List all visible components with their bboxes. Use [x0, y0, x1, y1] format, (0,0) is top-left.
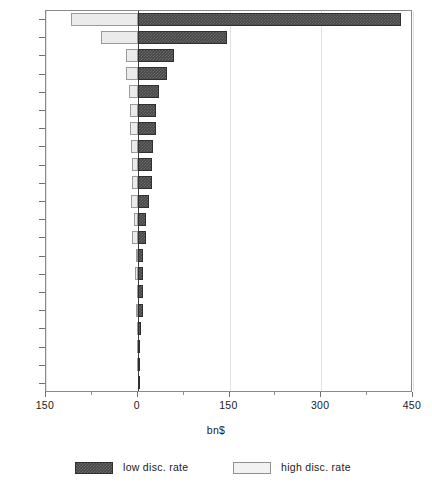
bar-low-disc-rate	[138, 49, 174, 62]
legend-label-high: high disc. rate	[281, 461, 351, 473]
bar-row	[46, 139, 411, 156]
bar-row	[46, 66, 411, 83]
bar-row	[46, 339, 411, 356]
bar-row	[46, 12, 411, 29]
x-tick-label: 300	[290, 399, 350, 411]
y-tick-mark	[39, 274, 45, 275]
y-tick-mark	[39, 165, 45, 166]
x-tick-label: 450	[382, 399, 432, 411]
x-tick-mark	[45, 392, 46, 397]
x-tick-label: 0	[107, 399, 167, 411]
y-tick-mark	[39, 219, 45, 220]
y-tick-mark	[39, 92, 45, 93]
bar-low-disc-rate	[138, 304, 143, 317]
y-tick-mark	[39, 110, 45, 111]
y-tick-mark	[39, 74, 45, 75]
bar-high-disc-rate	[101, 31, 138, 44]
gridline	[413, 11, 414, 391]
bar-row	[46, 230, 411, 247]
bar-row	[46, 266, 411, 283]
y-tick-mark	[39, 183, 45, 184]
bar-high-disc-rate	[126, 67, 138, 80]
bar-row	[46, 48, 411, 65]
bar-low-disc-rate	[138, 376, 140, 389]
bar-row	[46, 357, 411, 374]
bar-low-disc-rate	[138, 85, 159, 98]
y-tick-mark	[39, 201, 45, 202]
plot-area	[45, 10, 412, 392]
bar-high-disc-rate	[131, 195, 138, 208]
legend-swatch-high-icon	[233, 462, 271, 474]
bar-low-disc-rate	[138, 158, 152, 171]
y-tick-mark	[39, 347, 45, 348]
bar-high-disc-rate	[131, 140, 138, 153]
bar-low-disc-rate	[138, 195, 150, 208]
bar-low-disc-rate	[138, 13, 401, 26]
x-axis-title: bn$	[0, 424, 432, 436]
bar-row	[46, 194, 411, 211]
y-tick-mark	[39, 292, 45, 293]
bar-low-disc-rate	[138, 122, 156, 135]
y-tick-mark	[39, 328, 45, 329]
y-tick-mark	[39, 37, 45, 38]
legend-label-low: low disc. rate	[123, 461, 188, 473]
bar-chart: USJAPUKITAAUSFRASPASWEFRGNETDENNZLFINNOR…	[0, 0, 432, 496]
bar-low-disc-rate	[138, 104, 156, 117]
x-tick-minor-mark	[183, 392, 184, 395]
x-tick-minor-mark	[274, 392, 275, 395]
x-tick-mark	[320, 392, 321, 397]
x-tick-minor-mark	[366, 392, 367, 395]
bar-high-disc-rate	[71, 13, 138, 26]
y-tick-mark	[39, 55, 45, 56]
bar-high-disc-rate	[130, 104, 138, 117]
legend: low disc. rate high disc. rate	[0, 459, 432, 481]
bar-row	[46, 121, 411, 138]
x-tick-mark	[137, 392, 138, 397]
bar-row	[46, 284, 411, 301]
bar-high-disc-rate	[129, 85, 138, 98]
y-tick-mark	[39, 256, 45, 257]
bar-row	[46, 212, 411, 229]
legend-swatch-low-icon	[75, 462, 113, 474]
y-tick-mark	[39, 383, 45, 384]
bar-row	[46, 103, 411, 120]
x-tick-label: 150	[199, 399, 259, 411]
x-tick-label: 150	[15, 399, 75, 411]
bar-low-disc-rate	[138, 322, 141, 335]
bar-low-disc-rate	[138, 249, 144, 262]
bar-low-disc-rate	[138, 231, 147, 244]
bar-row	[46, 84, 411, 101]
bar-low-disc-rate	[138, 176, 153, 189]
y-tick-mark	[39, 128, 45, 129]
bar-high-disc-rate	[126, 49, 138, 62]
bar-row	[46, 321, 411, 338]
bar-high-disc-rate	[130, 122, 137, 135]
y-tick-mark	[39, 365, 45, 366]
bar-low-disc-rate	[138, 31, 227, 44]
bar-low-disc-rate	[138, 140, 153, 153]
y-tick-mark	[39, 237, 45, 238]
bar-low-disc-rate	[138, 285, 144, 298]
bar-low-disc-rate	[138, 267, 144, 280]
bar-row	[46, 30, 411, 47]
x-tick-mark	[412, 392, 413, 397]
x-tick-mark	[229, 392, 230, 397]
y-tick-mark	[39, 19, 45, 20]
bar-low-disc-rate	[138, 213, 147, 226]
y-tick-mark	[39, 310, 45, 311]
bar-row	[46, 157, 411, 174]
x-tick-minor-mark	[91, 392, 92, 395]
bar-row	[46, 175, 411, 192]
bar-low-disc-rate	[138, 67, 167, 80]
bar-row	[46, 248, 411, 265]
bar-low-disc-rate	[138, 358, 140, 371]
bar-row	[46, 303, 411, 320]
bar-row	[46, 375, 411, 392]
bar-low-disc-rate	[138, 340, 140, 353]
y-tick-mark	[39, 146, 45, 147]
